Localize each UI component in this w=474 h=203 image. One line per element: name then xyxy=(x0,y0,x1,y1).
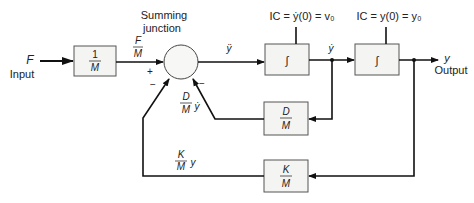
gain-D-over-M-block: D M xyxy=(264,102,308,135)
signal-d-numerator: D xyxy=(182,91,189,102)
output-label: Output xyxy=(434,64,467,76)
block-diagram: F Input 1 M F M Summing junction + − − ÿ… xyxy=(0,0,474,203)
summing-junction xyxy=(164,45,198,79)
ic-label-2: IC = y(0) = y₀ xyxy=(356,10,421,22)
signal-d-denominator: M xyxy=(182,104,191,115)
sign-minus-right: − xyxy=(199,78,205,89)
gain-K-over-M-block: K M xyxy=(264,160,308,192)
signal-k-numerator: K xyxy=(178,149,186,160)
gain-1-over-M-block: 1 M xyxy=(74,46,116,76)
signal-k-denominator: M xyxy=(177,161,186,172)
wire-ydot-to-d xyxy=(309,60,332,119)
sign-minus-left: − xyxy=(150,79,156,90)
gain-d-numerator: D xyxy=(282,106,289,117)
gain-1-denominator: M xyxy=(91,62,100,73)
signal-k-suffix: y xyxy=(190,157,197,168)
signal-f-over-m-denominator: M xyxy=(134,48,143,59)
sign-plus: + xyxy=(147,66,153,77)
gain-k-denominator: M xyxy=(282,178,291,189)
output-symbol: y xyxy=(443,52,451,64)
wire-y-to-k xyxy=(309,60,414,176)
gain-1-numerator: 1 xyxy=(92,49,98,60)
integrator-1-block: ∫ xyxy=(265,44,309,75)
input-label: Input xyxy=(10,68,34,80)
integrator-2-block: ∫ xyxy=(355,44,399,75)
signal-ydot: ẏ xyxy=(328,43,335,54)
wire-k-to-sum xyxy=(143,79,264,176)
signal-f-over-m-numerator: F xyxy=(135,35,142,46)
summing-label-line1: Summing xyxy=(141,9,187,21)
signal-d-suffix: ẏ xyxy=(194,101,201,112)
summing-label-line2: junction xyxy=(142,22,181,34)
gain-d-denominator: M xyxy=(282,120,291,131)
signal-yddot: ÿ xyxy=(226,43,233,54)
input-symbol: F xyxy=(26,53,34,67)
ic-label-1: IC = ẏ(0) = v₀ xyxy=(269,10,334,22)
